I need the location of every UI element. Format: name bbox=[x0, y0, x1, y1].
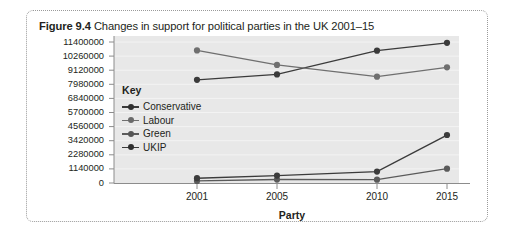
data-point bbox=[444, 64, 450, 70]
legend-label-conservative: Conservative bbox=[143, 101, 201, 112]
y-tick-label-2280000: 2280000 bbox=[40, 150, 104, 159]
y-axis bbox=[109, 36, 114, 184]
data-point bbox=[194, 77, 200, 83]
data-point bbox=[444, 132, 450, 138]
legend-item-green: Green bbox=[122, 127, 208, 141]
y-tick-label-0: 0 bbox=[40, 179, 104, 188]
data-point bbox=[374, 177, 380, 183]
data-point bbox=[374, 169, 380, 175]
legend-title: Key bbox=[122, 84, 208, 96]
y-tick-label-1140000: 1140000 bbox=[40, 164, 104, 173]
data-point bbox=[274, 71, 280, 77]
legend-marker-icon bbox=[122, 102, 139, 111]
y-tick-label-6840000: 6840000 bbox=[40, 94, 104, 103]
data-point bbox=[194, 175, 200, 181]
y-tick-label-5700000: 5700000 bbox=[40, 108, 104, 117]
legend-marker-icon bbox=[122, 129, 139, 138]
x-tick-label-2010: 2010 bbox=[357, 192, 397, 202]
data-point bbox=[444, 40, 450, 46]
data-point bbox=[274, 62, 280, 68]
y-tick-label-3420000: 3420000 bbox=[40, 136, 104, 145]
x-axis-title: Party bbox=[252, 209, 332, 221]
legend-label-ukip: UKIP bbox=[143, 142, 166, 153]
legend-item-labour: Labour bbox=[122, 114, 208, 128]
x-axis bbox=[114, 184, 470, 190]
y-tick-label-11400000: 11400000 bbox=[40, 38, 104, 47]
legend-item-ukip: UKIP bbox=[122, 141, 208, 155]
data-point bbox=[444, 166, 450, 172]
data-point bbox=[194, 47, 200, 53]
data-point bbox=[374, 74, 380, 80]
legend-marker-icon bbox=[122, 116, 139, 125]
legend-item-conservative: Conservative bbox=[122, 100, 208, 114]
line-chart: 11400000 10260000 9120000 7980000 684000… bbox=[0, 0, 516, 236]
y-tick-label-4560000: 4560000 bbox=[40, 122, 104, 131]
data-point bbox=[274, 172, 280, 178]
y-tick-label-10260000: 10260000 bbox=[40, 52, 104, 61]
x-tick-label-2001: 2001 bbox=[177, 192, 217, 202]
x-tick-label-2005: 2005 bbox=[257, 192, 297, 202]
legend-label-labour: Labour bbox=[143, 115, 174, 126]
y-tick-label-9120000: 9120000 bbox=[40, 66, 104, 75]
chart-legend: Key Conservative Labour Green bbox=[122, 84, 208, 154]
y-tick-label-7980000: 7980000 bbox=[40, 80, 104, 89]
legend-label-green: Green bbox=[143, 128, 171, 139]
x-tick-label-2015: 2015 bbox=[427, 192, 467, 202]
data-point bbox=[374, 48, 380, 54]
legend-marker-icon bbox=[122, 143, 139, 152]
